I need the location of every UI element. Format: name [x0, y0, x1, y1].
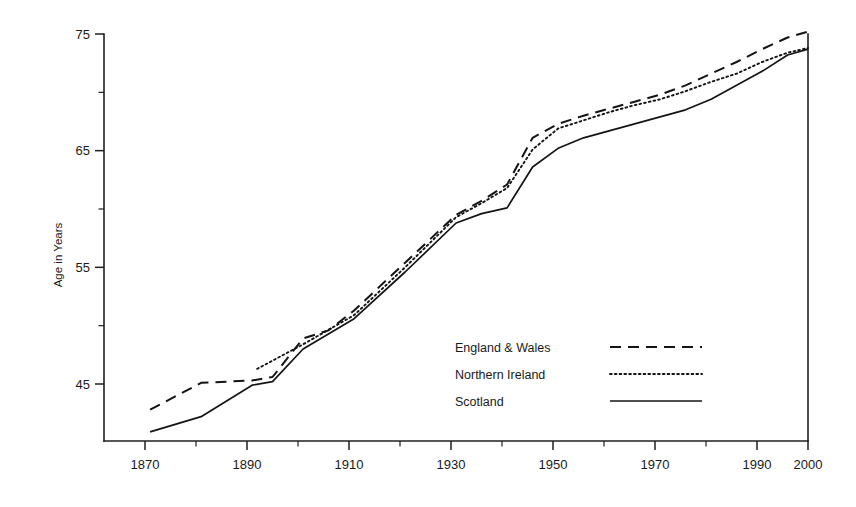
y-tick-label: 55 — [76, 260, 90, 275]
legend-label: Northern Ireland — [455, 368, 545, 382]
x-tick-label: 1890 — [233, 457, 262, 472]
x-tick-label: 1970 — [641, 457, 670, 472]
y-axis-label: Age in Years — [52, 222, 64, 287]
x-tick-label: 1950 — [539, 457, 568, 472]
x-tick-label: 1930 — [437, 457, 466, 472]
legend-label: Scotland — [455, 395, 504, 409]
x-tick-label: 2000 — [794, 457, 823, 472]
chart-container: 45556575 1870189019101930195019701990200… — [0, 0, 856, 507]
x-tick-label: 1990 — [743, 457, 772, 472]
x-tick-label: 1910 — [335, 457, 364, 472]
y-tick-label: 75 — [76, 27, 90, 42]
x-tick-label: 1870 — [131, 457, 160, 472]
y-tick-label: 65 — [76, 143, 90, 158]
legend-label: England & Wales — [455, 341, 550, 355]
life-expectancy-line-chart: 45556575 1870189019101930195019701990200… — [0, 0, 856, 507]
y-tick-label: 45 — [76, 377, 90, 392]
